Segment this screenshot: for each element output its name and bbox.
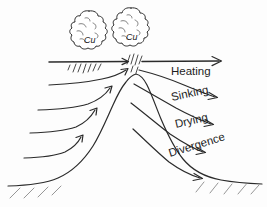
orographic-flow-diagram: Cu Cu [0, 0, 267, 207]
flow-label-heating: Heating [171, 65, 211, 77]
diagram-canvas: Cu Cu [0, 0, 267, 207]
ground-hatching-left [10, 186, 61, 198]
cloud-label-left: Cu [84, 35, 96, 45]
flow-labels: Heating Sinking Drying Divergence [167, 65, 226, 159]
cumulus-cloud-right: Cu [112, 8, 150, 46]
precipitation-streaks-left [68, 64, 101, 73]
cumulus-cloud-left: Cu [70, 11, 108, 49]
mountain-profile [8, 74, 262, 186]
flow-label-sinking: Sinking [170, 83, 209, 103]
upslope-flow-arrows [24, 69, 128, 159]
cloud-label-right: Cu [126, 32, 138, 42]
flow-label-drying: Drying [174, 111, 209, 130]
